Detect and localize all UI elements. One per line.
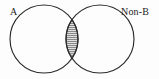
intersection-region xyxy=(38,20,106,59)
set-label-right: Non-B xyxy=(121,7,149,17)
set-label-left: A xyxy=(10,7,17,17)
venn-diagram: A Non-B xyxy=(0,0,159,79)
